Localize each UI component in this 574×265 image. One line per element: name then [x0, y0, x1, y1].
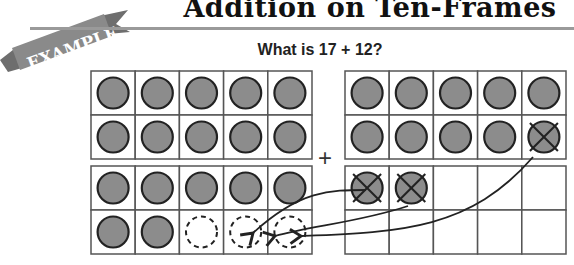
- counter: [98, 217, 129, 248]
- frame-cell: [522, 166, 566, 210]
- counter: [274, 173, 305, 204]
- counter: [186, 122, 217, 153]
- counter: [528, 78, 559, 109]
- ten-frame-right-top: [345, 71, 566, 159]
- counter: [484, 122, 515, 153]
- frame-cell: [389, 210, 433, 254]
- counter: [440, 122, 471, 153]
- frame-cell: [433, 166, 477, 210]
- frame-cell: [478, 210, 522, 254]
- counter: [230, 78, 261, 109]
- counter: [440, 78, 471, 109]
- counter: [186, 173, 217, 204]
- counter: [142, 173, 173, 204]
- counter: [396, 78, 427, 109]
- ten-frames-diagram: [0, 0, 574, 265]
- counter: [352, 78, 383, 109]
- counter: [230, 122, 261, 153]
- counter: [142, 122, 173, 153]
- ten-frame-left-bottom: [91, 166, 312, 254]
- ten-frame-right-bottom: [345, 166, 566, 254]
- counter: [274, 122, 305, 153]
- counter: [484, 78, 515, 109]
- counter: [274, 78, 305, 109]
- counter: [230, 173, 261, 204]
- counter: [98, 173, 129, 204]
- counter: [186, 78, 217, 109]
- frame-cell: [522, 210, 566, 254]
- counter: [142, 78, 173, 109]
- counter: [396, 122, 427, 153]
- ten-frame-left-top: [91, 71, 312, 159]
- counter: [352, 122, 383, 153]
- counter: [98, 122, 129, 153]
- counter: [98, 78, 129, 109]
- frame-cell: [433, 210, 477, 254]
- counter: [142, 217, 173, 248]
